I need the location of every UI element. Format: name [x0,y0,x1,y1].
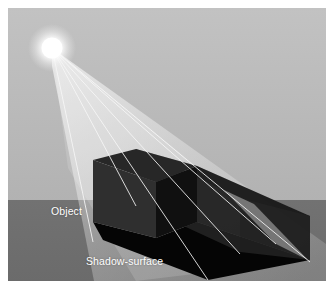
scene-frame: Object Shadow-surface [8,8,326,281]
label-shadow-surface: Shadow-surface [86,255,163,267]
scene-svg [8,8,326,281]
label-object: Object [51,205,82,217]
light-source-core [42,38,63,59]
figure-root: Object Shadow-surface [0,0,334,293]
